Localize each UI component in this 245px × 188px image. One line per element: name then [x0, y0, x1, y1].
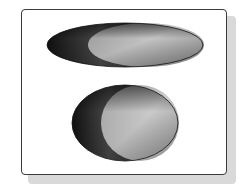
near-spherical-ellipsoid [72, 85, 179, 161]
oblate-spheroid [47, 23, 204, 67]
ellipsoid-figure [0, 0, 245, 188]
